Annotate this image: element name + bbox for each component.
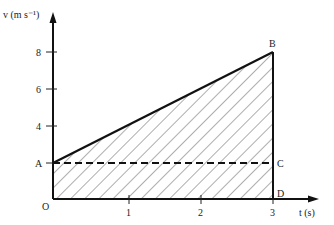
x-tick-label-3: 3 [270,207,275,218]
y-tick-label-6: 6 [36,84,41,95]
origin-label: O [42,201,49,212]
x-tick-label-2: 2 [198,207,203,218]
x-axis-label: t (s) [299,207,315,219]
y-axis-arrow-icon [50,12,57,23]
y-axis-label: v (m s⁻¹) [3,9,39,21]
point-label-b: B [269,38,276,49]
point-label-c: C [277,158,284,169]
x-tick-label-1: 1 [126,207,131,218]
hatched-area [53,52,273,199]
y-tick-label-8: 8 [36,47,41,58]
point-label-d: D [277,188,284,199]
y-tick-label-4: 4 [36,121,41,132]
point-label-a: A [35,158,43,169]
velocity-time-graph: v (m s⁻¹) 8 6 4 A O 1 2 3 t (s) B C D [0,0,334,225]
x-axis-arrow-icon [308,196,319,203]
